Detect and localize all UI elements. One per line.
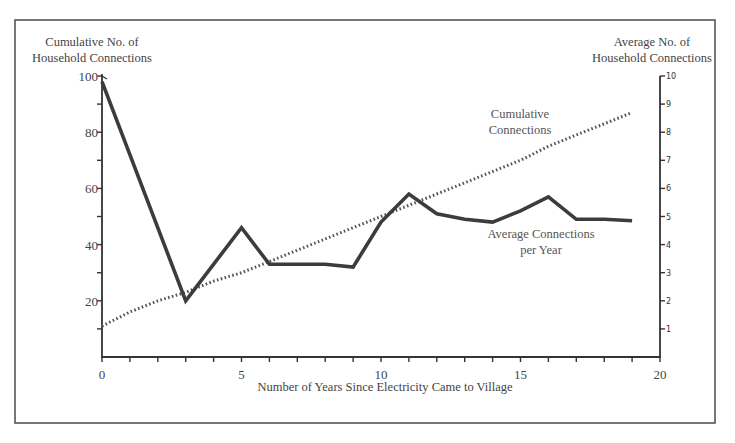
y-right-tick-label: 7 [666, 156, 671, 165]
y-right-tick-label: 9 [666, 100, 671, 109]
cumulative-label-line1: Cumulative [491, 107, 550, 121]
y-right-title-line2: Household Connections [592, 51, 712, 65]
average-connections-line [102, 82, 632, 301]
plot-area [102, 82, 632, 327]
cumulative-label-line2: Connections [489, 123, 552, 137]
y-right-tick-label: 5 [666, 213, 671, 222]
average-label-line2: per Year [520, 243, 562, 257]
x-tick-label: 20 [654, 367, 667, 382]
y-right-tick-label: 6 [666, 184, 671, 193]
y-right-tick-label: 4 [666, 241, 671, 250]
average-label-line1: Average Connections [487, 227, 594, 241]
chart-frame [15, 20, 715, 423]
y-right-tick-label: 10 [666, 72, 676, 81]
x-tick-label: 15 [514, 367, 527, 382]
y-left-title-line1: Cumulative No. of [45, 35, 139, 49]
y-right-tick-label: 8 [666, 128, 671, 137]
y-right-tick-label: 3 [666, 269, 671, 278]
x-tick-label: 10 [375, 367, 388, 382]
x-axis-title: Number of Years Since Electricity Came t… [257, 380, 513, 394]
y-right-title-line1: Average No. of [614, 35, 691, 49]
y-left-tick-label: 100 [79, 69, 99, 84]
y-left-tick-label: 40 [85, 238, 98, 253]
y-left-tick-label: 20 [85, 294, 98, 309]
y-left-tick-label: 80 [85, 125, 98, 140]
y-right-tick-label: 1 [666, 325, 671, 334]
y-left-title-line2: Household Connections [32, 51, 152, 65]
x-tick-label: 0 [99, 367, 106, 382]
y-right-tick-label: 2 [666, 297, 671, 306]
x-tick-label: 5 [238, 367, 245, 382]
chart: Cumulative No. of Household Connections … [0, 0, 735, 443]
y-left-tick-label: 60 [85, 181, 98, 196]
